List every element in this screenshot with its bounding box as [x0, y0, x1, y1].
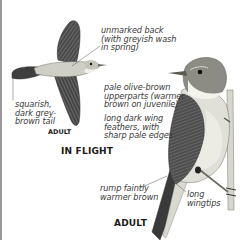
field-guide-plate: unmarked back (with greyish wash in spri…: [0, 0, 248, 240]
flying-bird-upper-wing: [57, 21, 80, 64]
perched-bird-leg-lower: [200, 170, 228, 192]
flying-bird-bill: [98, 64, 107, 67]
annotation-back: unmarked back (with greyish wash in spri…: [101, 26, 176, 52]
flying-bird-lower-wing: [54, 74, 80, 125]
annotation-wing-feathers: long dark wing feathers, with sharp pale…: [104, 114, 173, 140]
perched-bird-eye: [198, 70, 203, 75]
annotation-rump: rump faintly warmer brown: [100, 184, 158, 201]
in-flight-heading: IN FLIGHT: [61, 146, 113, 156]
perched-bird-bill: [168, 71, 187, 76]
annotation-tail: squarish, dark grey- brown tail: [15, 100, 56, 126]
annotation-upperparts: pale olive-brown upperparts (warmer brow…: [104, 83, 185, 109]
flight-age-label: ADULT: [48, 128, 71, 136]
perched-age-label: ADULT: [114, 218, 147, 228]
perched-bird-thigh: [195, 167, 201, 174]
flying-bird-eye: [90, 63, 92, 65]
reed-stem: [227, 90, 234, 210]
annotation-wingtips: long wingtips: [187, 190, 221, 207]
